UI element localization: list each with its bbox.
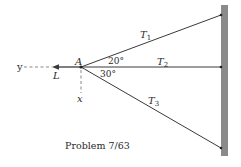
axis-x-label: x — [77, 94, 83, 104]
attach-point-T3 — [220, 147, 223, 150]
cable-T1-label: T1 — [140, 30, 151, 42]
cable-T3-label-text: T — [148, 95, 155, 106]
attach-point-T1 — [220, 14, 223, 17]
axis-y-label: y — [17, 62, 23, 72]
angle-20-label: 20° — [108, 57, 124, 66]
cable-T2-subscript: 2 — [164, 61, 168, 69]
force-L-label: L — [53, 71, 60, 81]
angle-30-label: 30° — [100, 70, 116, 79]
cable-T1-label-text: T — [140, 29, 147, 40]
force-L-arrowhead-icon — [52, 64, 59, 69]
cable-T1-subscript: 1 — [147, 34, 151, 42]
wall — [221, 5, 228, 156]
figure-caption: Problem 7/63 — [65, 141, 130, 151]
point-A-label: A — [75, 57, 82, 67]
cable-T2-label-text: T — [157, 56, 164, 67]
cable-T3-subscript: 3 — [155, 100, 159, 108]
cable-T2-label: T2 — [157, 57, 168, 69]
cable-T3-label: T3 — [148, 96, 159, 108]
attach-point-T2 — [220, 66, 223, 69]
